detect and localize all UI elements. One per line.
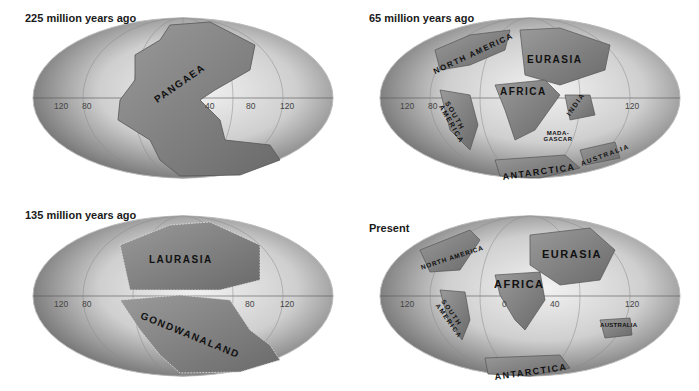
title-65mya: 65 million years ago — [369, 12, 474, 24]
maps-svg — [0, 0, 699, 391]
label-eurasia: EURASIA — [527, 54, 583, 65]
tick-label: 0 — [502, 299, 507, 309]
tick-label: 80 — [82, 299, 91, 309]
tick-label: 80 — [245, 299, 254, 309]
tick-label: 80 — [246, 101, 255, 111]
tick-label: 120 — [280, 299, 294, 309]
tick-label: 120 — [400, 299, 414, 309]
label-laurasia: LAURASIA — [149, 254, 213, 265]
label-eurasia: EURASIA — [542, 248, 602, 260]
tick-label: 120 — [280, 101, 294, 111]
label-africa: AFRICA — [494, 278, 545, 290]
map-225mya — [33, 18, 333, 178]
tick-label: 80 — [82, 101, 91, 111]
tick-label: 120 — [54, 101, 68, 111]
tick-label: 120 — [400, 101, 414, 111]
title-135mya: 135 million years ago — [25, 209, 136, 221]
tick-label: 80 — [428, 101, 437, 111]
label-madagascar: MADA-GASCAR — [540, 130, 576, 142]
tick-label: 40 — [550, 299, 559, 309]
map-135mya — [33, 216, 333, 376]
map-present — [380, 216, 680, 376]
label-africa: AFRICA — [500, 86, 547, 97]
tick-label: 120 — [54, 299, 68, 309]
tick-label: 120 — [625, 101, 639, 111]
title-present: Present — [369, 222, 409, 234]
label-australia: AUSTRALIA — [600, 322, 637, 328]
tick-label: 40 — [205, 101, 214, 111]
map-65mya — [380, 18, 680, 178]
tick-label: 120 — [625, 299, 639, 309]
title-225mya: 225 million years ago — [25, 12, 136, 24]
